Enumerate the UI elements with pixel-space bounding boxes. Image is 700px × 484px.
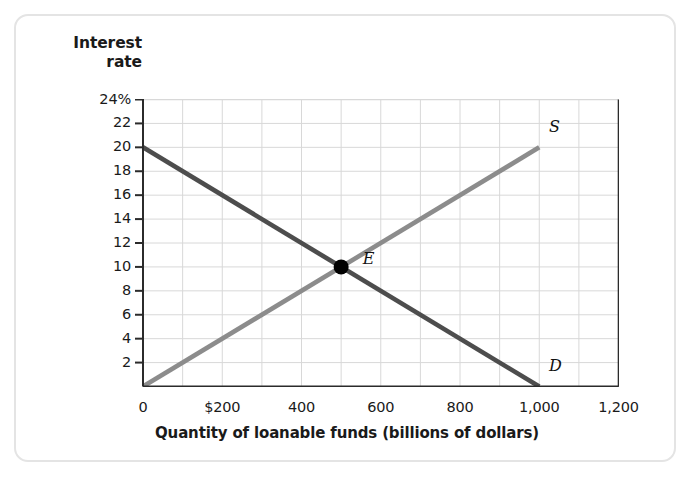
y-tick-label: 12: [59, 234, 131, 250]
curve-label-s: S: [549, 117, 560, 136]
x-tick-label: 1,000: [494, 399, 584, 415]
y-axis-title: Interest rate: [46, 34, 142, 72]
y-tick-label: 10: [59, 258, 131, 274]
x-tick-label: 800: [415, 399, 505, 415]
curve-label-d: D: [549, 356, 562, 375]
y-axis-title-line2: rate: [46, 53, 142, 72]
y-tick-label: 8: [59, 282, 131, 298]
x-tick-label: 600: [336, 399, 426, 415]
y-tick-label: 24%: [59, 91, 131, 107]
x-tick-label: 400: [257, 399, 347, 415]
y-tick-label: 20: [59, 138, 131, 154]
x-axis-title: Quantity of loanable funds (billions of …: [16, 424, 678, 442]
y-tick-label: 16: [59, 186, 131, 202]
y-tick-label: 18: [59, 162, 131, 178]
x-tick-label: 1,200: [574, 399, 664, 415]
equilibrium-point-marker: [334, 259, 349, 274]
x-tick-label: 0: [98, 399, 188, 415]
plot-area: [129, 99, 619, 387]
x-tick-label: $200: [177, 399, 267, 415]
y-axis-title-line1: Interest: [46, 34, 142, 53]
y-tick-label: 14: [59, 210, 131, 226]
y-tick-label: 2: [59, 354, 131, 370]
equilibrium-point-label: E: [363, 249, 375, 268]
y-tick-label: 6: [59, 306, 131, 322]
chart-canvas: [129, 99, 619, 387]
y-tick-label: 22: [59, 114, 131, 130]
y-tick-label: 4: [59, 330, 131, 346]
figure-frame: Interest rate 24681012141618202224% 0$20…: [14, 14, 676, 462]
